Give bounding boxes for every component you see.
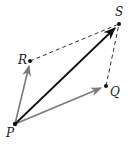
vector-p-s-arrow — [15, 28, 115, 124]
point-s-dot — [117, 22, 121, 26]
point-q-label: Q — [110, 85, 120, 99]
vector-diagram: P Q R S — [0, 0, 132, 144]
point-p-label: P — [5, 126, 15, 140]
point-s-label: S — [115, 5, 123, 19]
diagram-svg: P Q R S — [0, 0, 132, 144]
point-r-label: R — [17, 53, 27, 67]
point-r-dot — [28, 59, 32, 63]
dashed-edge-r-s — [30, 24, 119, 61]
vector-p-q-arrow — [15, 88, 101, 124]
dashed-edge-q-s — [106, 24, 119, 86]
vector-p-r-arrow — [15, 66, 29, 124]
point-q-dot — [104, 84, 108, 88]
